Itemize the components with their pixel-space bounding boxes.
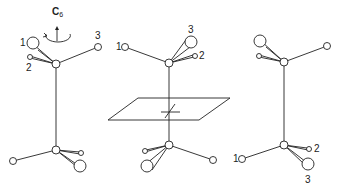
atom-label-2: 2 <box>314 144 320 154</box>
rotation-arrow-icon <box>43 26 70 42</box>
atom-label-1: 1 <box>233 154 239 164</box>
symmetry-diagram <box>0 0 341 190</box>
atom-label-1: 1 <box>116 42 122 52</box>
atom-label-3: 3 <box>188 25 194 35</box>
atom-label-3: 3 <box>95 31 101 41</box>
atom-label-3: 3 <box>305 175 311 185</box>
atom-label-1: 1 <box>20 38 26 48</box>
panel-middle-molecule <box>108 36 230 172</box>
atom-label-2: 2 <box>26 63 32 73</box>
atom-label-2: 2 <box>199 51 205 61</box>
axis-label-c6: C6 <box>52 7 63 17</box>
